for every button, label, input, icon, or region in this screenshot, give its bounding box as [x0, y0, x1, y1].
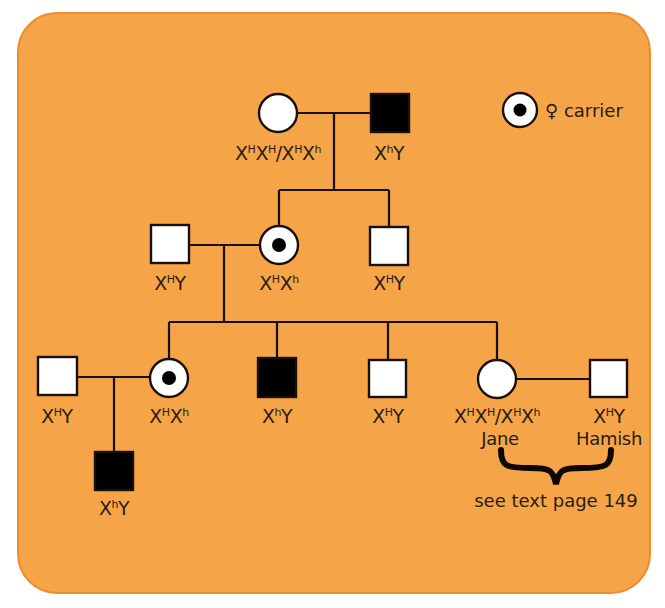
genotype-label-g2-husband: XHY — [154, 272, 185, 294]
genotype-label-g2-son: XHY — [373, 272, 404, 294]
genotype-label-g3-son2: XHY — [372, 405, 403, 427]
male-affected-g3 — [258, 358, 296, 397]
genotype-label-g3-daughter: XHXh — [149, 405, 188, 427]
male-unaffected-g2-husband — [151, 225, 189, 263]
carrier-dot — [272, 238, 286, 252]
name-hamish: Hamish — [576, 428, 642, 449]
genotype-label-hamish: XHY — [593, 405, 624, 427]
legend-label: ♀ carrier — [545, 100, 623, 121]
female-unaffected-g1 — [259, 94, 297, 132]
carrier-dot — [514, 104, 527, 117]
genotype-label-jane: XHXH/XHXh — [454, 405, 540, 427]
genotype-label-g2-daughter: XHXh — [259, 272, 298, 294]
genotype-label-g4: XhY — [99, 497, 129, 519]
male-affected-g1 — [371, 94, 409, 132]
reference-note: see text page 149 — [474, 490, 638, 511]
name-jane: Jane — [481, 428, 519, 449]
male-hamish — [590, 360, 627, 397]
genotype-label-g1-father: XhY — [374, 142, 404, 164]
genotype-label-g3-husband: XHY — [41, 405, 72, 427]
male-unaffected-g2-son — [370, 227, 408, 265]
male-unaffected-g3-husband — [38, 357, 77, 395]
genotype-label-g1-mother: XHXH/XHXh — [235, 142, 321, 164]
carrier-dot — [162, 371, 176, 385]
legend-carrier-text: carrier — [564, 100, 623, 121]
brace-icon — [501, 450, 611, 484]
male-unaffected-g3 — [369, 360, 406, 397]
female-jane — [478, 360, 516, 398]
female-symbol-icon: ♀ — [545, 100, 558, 121]
male-affected-g4 — [95, 452, 133, 490]
genotype-label-g3-son1: XhY — [262, 405, 292, 427]
